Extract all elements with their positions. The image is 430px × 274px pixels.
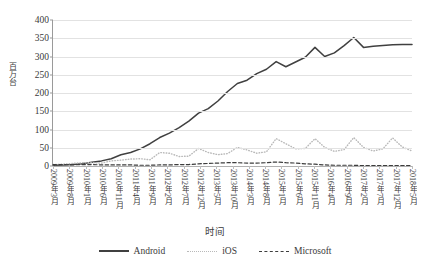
x-axis-tick-label: 2016年4月 <box>326 169 335 205</box>
legend-label: Microsoft <box>294 246 331 256</box>
x-axis-tick-label: 2017年12月 <box>392 169 401 209</box>
y-axis-tick-label: 300 <box>35 52 49 62</box>
y-axis-tickmark <box>50 111 53 112</box>
y-axis-title: 百万台 <box>2 62 16 86</box>
y-axis-tick-label: 350 <box>35 33 49 43</box>
x-axis-tick-label: 2015年6月 <box>294 169 303 205</box>
legend-swatch-solid-icon <box>99 250 129 251</box>
legend-item-android[interactable]: Android <box>99 246 166 256</box>
legend-swatch-dashed-icon <box>259 251 289 252</box>
gridline <box>53 75 412 76</box>
chart-legend: AndroidiOSMicrosoft <box>0 246 430 256</box>
gridline <box>53 111 412 112</box>
x-axis-tick-labels: 2009年3月2009年8月2010年1月2010年6月2010年11月2011… <box>53 169 412 221</box>
x-axis-tick-label: 2013年5月 <box>212 169 221 205</box>
legend-item-ios[interactable]: iOS <box>187 246 237 256</box>
y-axis-tick-label: 50 <box>40 143 50 153</box>
x-axis-tick-label: 2017年7月 <box>375 169 384 205</box>
legend-label: Android <box>134 246 166 256</box>
gridline <box>53 93 412 94</box>
y-axis-tickmark <box>50 56 53 57</box>
x-axis-tick-label: 2017年2月 <box>359 169 368 205</box>
x-axis-tick-label: 2015年11月 <box>310 169 319 209</box>
line-chart: 百万台 400350300250200150100500 2009年3月2009… <box>0 0 430 274</box>
y-axis-tick-label: 150 <box>35 106 49 116</box>
y-axis-tick-label: 250 <box>35 70 49 80</box>
x-axis-tick-label: 2015年1月 <box>277 169 286 205</box>
y-axis-tickmark <box>50 147 53 148</box>
x-axis-tick-label: 2014年3月 <box>245 169 254 205</box>
x-axis-tick-label: 2011年9月 <box>147 169 156 205</box>
x-axis-tick-label: 2009年3月 <box>49 169 58 205</box>
x-axis-tick-label: 2009年8月 <box>65 169 74 205</box>
x-axis-tick-label: 2014年8月 <box>261 169 270 205</box>
gridline <box>53 38 412 39</box>
x-axis-title: 时间 <box>0 224 430 238</box>
x-axis-tick-label: 2011年4月 <box>131 169 140 205</box>
series-line-ios <box>53 138 412 165</box>
legend-label: iOS <box>222 246 237 256</box>
legend-swatch-dotted-icon <box>187 251 217 252</box>
legend-item-microsoft[interactable]: Microsoft <box>259 246 331 256</box>
gridline <box>53 20 412 21</box>
y-axis-tickmark <box>50 129 53 130</box>
x-axis-tick-label: 2010年1月 <box>82 169 91 205</box>
y-axis-tickmark <box>50 38 53 39</box>
x-axis-tick-label: 2010年11月 <box>114 169 123 209</box>
y-axis-tickmark <box>50 74 53 75</box>
x-axis-tick-label: 2016年9月 <box>343 169 352 205</box>
y-axis-tick-label: 200 <box>35 88 49 98</box>
y-axis-tick-label: 400 <box>35 15 49 25</box>
gridline <box>53 57 412 58</box>
x-axis-tick-label: 2012年7月 <box>180 169 189 205</box>
plot-area <box>53 20 412 166</box>
x-axis-tick-label: 2012年2月 <box>163 169 172 205</box>
x-axis-tick-label: 2010年6月 <box>98 169 107 205</box>
x-axis-tick-label: 2018年5月 <box>408 169 417 205</box>
y-axis-tick-labels: 400350300250200150100500 <box>16 14 52 172</box>
x-axis-tick-label: 2013年10月 <box>229 169 238 209</box>
y-axis-tick-label: 100 <box>35 125 49 135</box>
x-axis-tick-label: 2012年12月 <box>196 169 205 209</box>
gridline <box>53 130 412 131</box>
y-axis-tickmark <box>50 20 53 21</box>
y-axis-tickmark <box>50 93 53 94</box>
gridline <box>53 148 412 149</box>
